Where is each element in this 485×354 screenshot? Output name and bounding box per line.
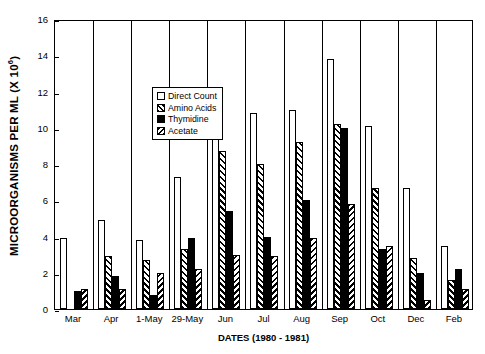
bar-group xyxy=(55,21,93,309)
bar-direct-count xyxy=(212,128,219,309)
bar-group xyxy=(322,21,360,309)
group-separator xyxy=(207,21,208,309)
bar-group xyxy=(245,21,283,309)
bar-group xyxy=(207,21,245,309)
group-separator xyxy=(284,21,285,309)
bar-direct-count xyxy=(289,110,296,309)
y-tick-mark xyxy=(55,275,59,276)
legend-swatch-direct-count xyxy=(157,92,165,100)
bar-amino-acids xyxy=(219,151,226,309)
y-tick-mark xyxy=(55,94,59,95)
bar-amino-acids xyxy=(257,164,264,309)
bar-direct-count xyxy=(250,113,257,309)
y-tick-mark xyxy=(55,130,59,131)
x-tick-label: Sep xyxy=(331,313,348,324)
bar-amino-acids xyxy=(372,188,379,309)
x-tick-label: 29-May xyxy=(171,313,203,324)
bar-amino-acids xyxy=(296,142,303,309)
chart-figure: MICROORGANISMS PER ML (X 106) Direct Cou… xyxy=(0,0,485,354)
y-tick-label: 8 xyxy=(18,160,48,170)
bar-acetate xyxy=(157,273,164,309)
bar-direct-count xyxy=(365,126,372,309)
bar-acetate xyxy=(348,204,355,309)
y-tick-label: 16 xyxy=(18,15,48,25)
y-tick-mark xyxy=(55,57,59,58)
y-tick-label: 0 xyxy=(18,305,48,315)
bar-acetate xyxy=(424,300,431,309)
group-separator xyxy=(322,21,323,309)
bar-acetate xyxy=(195,269,202,309)
bar-acetate xyxy=(271,256,278,309)
bar-amino-acids xyxy=(334,124,341,309)
y-tick-label: 6 xyxy=(18,197,48,207)
group-separator xyxy=(436,21,437,309)
group-separator xyxy=(131,21,132,309)
group-separator xyxy=(169,21,170,309)
bar-thymidine xyxy=(264,237,271,310)
legend-label-thymidine: Thymidine xyxy=(168,114,209,124)
y-tick-label: 12 xyxy=(18,88,48,98)
chart-legend: Direct Count Amino Acids Thymidine Aceta… xyxy=(152,87,223,140)
y-axis-title: MICROORGANISMS PER ML (X 106) xyxy=(0,0,26,312)
x-tick-label: Oct xyxy=(370,313,385,324)
bar-direct-count xyxy=(174,177,181,309)
bar-thymidine xyxy=(112,276,119,309)
y-tick-mark xyxy=(55,239,59,240)
y-tick-mark xyxy=(55,202,59,203)
bar-group xyxy=(398,21,436,309)
group-separator xyxy=(93,21,94,309)
x-tick-label: 1-May xyxy=(136,313,162,324)
bar-direct-count xyxy=(327,59,334,309)
legend-item-direct-count: Direct Count xyxy=(157,91,217,101)
bar-group xyxy=(169,21,207,309)
legend-label-acetate: Acetate xyxy=(168,126,198,136)
bar-thymidine xyxy=(303,200,310,309)
bar-direct-count xyxy=(98,220,105,309)
bar-thymidine xyxy=(74,291,81,309)
bar-direct-count xyxy=(403,188,410,309)
x-tick-label: Mar xyxy=(65,313,81,324)
y-tick-mark xyxy=(55,21,59,22)
x-tick-label: Feb xyxy=(446,313,462,324)
bar-thymidine xyxy=(455,269,462,309)
legend-item-acetate: Acetate xyxy=(157,126,217,136)
bar-amino-acids xyxy=(105,256,112,309)
x-tick-label: Dec xyxy=(407,313,424,324)
group-separator xyxy=(245,21,246,309)
legend-label-direct-count: Direct Count xyxy=(168,91,217,101)
bars-layer xyxy=(55,21,472,309)
bar-acetate xyxy=(310,238,317,309)
y-axis-title-exponent: 6 xyxy=(6,60,15,64)
plot-area: Direct Count Amino Acids Thymidine Aceta… xyxy=(54,20,473,310)
legend-item-thymidine: Thymidine xyxy=(157,114,217,124)
legend-swatch-amino-acids xyxy=(157,104,165,112)
bar-acetate xyxy=(233,255,240,309)
bar-group xyxy=(436,21,474,309)
bar-amino-acids xyxy=(410,258,417,309)
x-axis-title: DATES (1980 - 1981) xyxy=(54,332,473,343)
x-tick-label: Jul xyxy=(257,313,269,324)
legend-swatch-acetate xyxy=(157,127,165,135)
y-tick-label: 10 xyxy=(18,124,48,134)
bar-thymidine xyxy=(188,238,195,309)
bar-thymidine xyxy=(341,128,348,309)
y-tick-mark xyxy=(55,166,59,167)
bar-group xyxy=(93,21,131,309)
bar-acetate xyxy=(462,289,469,309)
bar-direct-count xyxy=(136,240,143,309)
x-tick-label: Aug xyxy=(293,313,310,324)
bar-acetate xyxy=(119,289,126,309)
legend-swatch-thymidine xyxy=(157,115,165,123)
y-tick-label: 4 xyxy=(18,233,48,243)
bar-group xyxy=(284,21,322,309)
bar-amino-acids xyxy=(448,280,455,309)
y-tick-label: 2 xyxy=(18,269,48,279)
bar-thymidine xyxy=(150,295,157,310)
x-axis-tick-labels: MarApr1-May29-MayJunJulAugSepOctDecFeb xyxy=(54,313,473,329)
bar-group xyxy=(131,21,169,309)
bar-amino-acids xyxy=(143,260,150,309)
group-separator xyxy=(360,21,361,309)
bar-thymidine xyxy=(379,249,386,309)
bar-acetate xyxy=(81,289,88,309)
bar-amino-acids xyxy=(181,249,188,309)
